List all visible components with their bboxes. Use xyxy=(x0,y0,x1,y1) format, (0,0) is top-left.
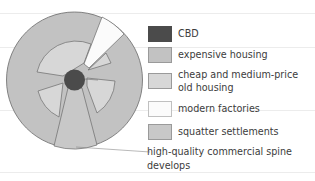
legend-label: modern factories xyxy=(178,103,260,115)
legend-label: CBD xyxy=(178,28,199,40)
expensive-housing-swatch xyxy=(148,47,172,63)
annotation-line-2: develops xyxy=(147,159,312,173)
annotation-text: high-quality commercial spine develops xyxy=(147,145,312,173)
legend-label: cheap and medium-price xyxy=(178,69,298,81)
legend-label: old housing xyxy=(178,82,234,94)
cheap-housing-swatch xyxy=(148,73,172,89)
cbd-zone xyxy=(64,70,85,91)
annotation-leader-line xyxy=(76,147,150,152)
cbd-swatch xyxy=(148,26,172,42)
city-model-diagram xyxy=(0,0,150,181)
annotation-line-1: high-quality commercial spine xyxy=(147,145,312,159)
squatter-settlements-swatch xyxy=(148,124,172,140)
modern-factories-swatch xyxy=(148,101,172,117)
legend-label: squatter settlements xyxy=(178,126,279,138)
legend-label: expensive housing xyxy=(178,49,268,61)
